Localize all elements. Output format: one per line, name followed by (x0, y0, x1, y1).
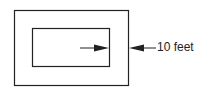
dimension-label: 10 feet (157, 40, 194, 54)
outer-arrow-icon (129, 45, 156, 52)
outer-rectangle (15, 11, 129, 86)
inner-arrow-icon (80, 45, 109, 52)
